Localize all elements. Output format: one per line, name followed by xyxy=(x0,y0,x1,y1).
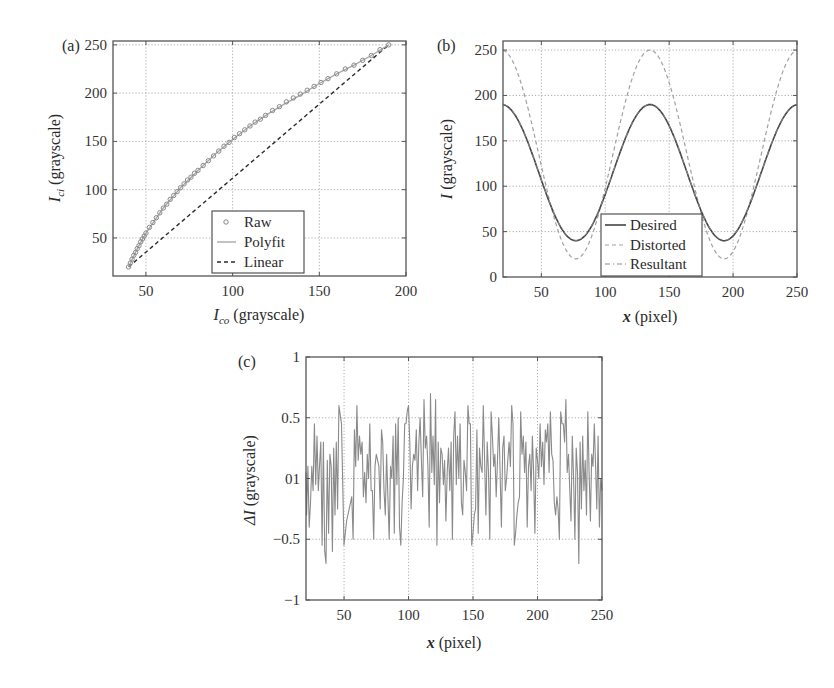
x-tick-label: 250 xyxy=(591,607,614,623)
panel-a-ylabel: Ici (grayscale) xyxy=(46,114,66,203)
y-tick-label: 01 xyxy=(285,471,300,487)
panel-c-label: (c) xyxy=(238,353,256,371)
legend-polyfit: Polyfit xyxy=(244,234,286,250)
y-tick-label: 150 xyxy=(85,133,108,149)
y-tick-label: 200 xyxy=(85,85,108,101)
y-tick-label: 100 xyxy=(475,178,498,194)
y-tick-label: −0.5 xyxy=(273,531,300,547)
panel-a-legend: Raw Polyfit Linear xyxy=(212,211,304,273)
legend-distorted: Distorted xyxy=(630,237,686,253)
panel-a-chart: (a) 5010015020050100150200250 Ico (grays… xyxy=(46,37,417,326)
y-tick-label: 50 xyxy=(482,224,497,240)
panel-b-ylabel: I (grayscale) xyxy=(438,119,456,200)
x-tick-label: 150 xyxy=(658,284,681,300)
x-tick-label: 200 xyxy=(526,607,549,623)
x-tick-label: 100 xyxy=(397,607,420,623)
x-tick-label: 50 xyxy=(138,283,153,299)
x-tick-label: 50 xyxy=(337,607,352,623)
panel-c-ylabel: ΔI (grayscale) xyxy=(241,435,259,526)
y-tick-label: 100 xyxy=(85,182,108,198)
y-tick-label: 250 xyxy=(85,37,108,53)
x-tick-label: 250 xyxy=(786,284,809,300)
y-tick-label: 0 xyxy=(490,269,498,285)
y-tick-label: 250 xyxy=(475,42,498,58)
y-tick-label: 50 xyxy=(92,230,107,246)
y-tick-label: −1 xyxy=(284,592,300,608)
x-tick-label: 200 xyxy=(395,283,418,299)
y-tick-label: 150 xyxy=(475,133,498,149)
legend-linear: Linear xyxy=(244,254,283,270)
panel-b-legend: Desired Distorted Resultant xyxy=(601,214,702,276)
panel-b-chart: (b) 50100150200250050100150200250 x (pix… xyxy=(437,37,808,326)
panel-a-label: (a) xyxy=(62,37,80,55)
x-tick-label: 150 xyxy=(462,607,485,623)
x-tick-label: 200 xyxy=(722,284,745,300)
x-tick-label: 100 xyxy=(221,283,244,299)
y-tick-label: 1 xyxy=(293,349,301,365)
figure-canvas: (a) 5010015020050100150200250 Ico (grays… xyxy=(0,0,834,688)
panel-b-label: (b) xyxy=(437,37,456,55)
x-tick-label: 100 xyxy=(594,284,617,300)
panel-b-xlabel: x (pixel) xyxy=(622,308,678,326)
x-tick-label: 50 xyxy=(534,284,549,300)
panel-a-xlabel: Ico (grayscale) xyxy=(213,306,305,326)
panel-c-xlabel: x (pixel) xyxy=(426,634,482,652)
x-tick-label: 150 xyxy=(308,283,331,299)
y-tick-label: 0.5 xyxy=(281,410,300,426)
legend-raw: Raw xyxy=(244,214,272,230)
panel-c-grid xyxy=(306,357,602,600)
y-tick-label: 200 xyxy=(475,87,498,103)
legend-resultant: Resultant xyxy=(630,256,687,272)
panel-c-chart: (c) 50100150200250−1−0.5010.51 x (pixel)… xyxy=(238,349,613,652)
legend-desired: Desired xyxy=(630,217,677,233)
